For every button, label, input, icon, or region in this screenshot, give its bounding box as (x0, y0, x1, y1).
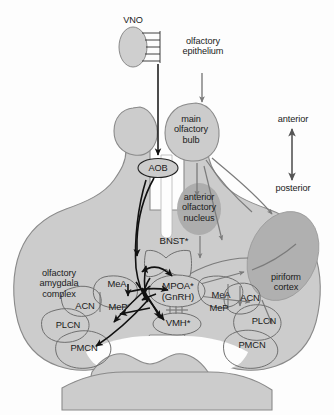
anterior-axis-label: anterior (264, 114, 322, 124)
olfactory-amygdala-complex-label: olfactoryamygdalacomplex (22, 268, 96, 299)
posterior-axis-label: posterior (264, 183, 322, 193)
vmh-label: VMH* (154, 318, 202, 329)
vno-label: VNO (111, 15, 155, 25)
anterior-olfactory-nucleus-label: anteriorolfactorynucleus (169, 192, 229, 223)
left-mep-label: MeP (101, 302, 135, 313)
right-pmcn-label: PMCN (230, 340, 274, 351)
right-acn-label: ACN (233, 293, 267, 304)
circuit-diagram (0, 0, 334, 415)
piriform-cortex-label: piriformcortex (258, 272, 314, 293)
aob-label: AOB (138, 163, 178, 173)
main-olfactory-bulb-label: mainolfactorybulb (162, 114, 220, 145)
left-pmcn-label: PMCN (62, 343, 106, 354)
vno-organ (119, 27, 160, 67)
olfactory-epithelium-label: olfactoryepithelium (167, 36, 239, 57)
bnst-label: BNST* (150, 236, 198, 247)
right-plcn-label: PLCN (244, 316, 284, 327)
gnrh-label: (GnRH) (153, 292, 203, 303)
left-acn-label: ACN (68, 301, 102, 312)
figure-canvas: VNO olfactoryepithelium mainolfactorybul… (0, 0, 334, 415)
left-mea-label: MeA (100, 279, 134, 290)
left-plcn-label: PLCN (48, 320, 88, 331)
right-mep-label: MeP (202, 303, 236, 314)
